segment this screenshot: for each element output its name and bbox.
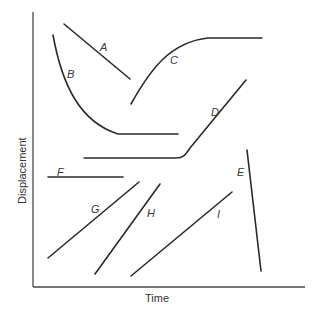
curve-d-label: D: [211, 106, 219, 118]
curve-i-line: [131, 192, 232, 276]
curve-h-label: H: [147, 207, 155, 219]
curve-a-label: A: [99, 41, 107, 53]
curve-g: G: [48, 182, 139, 258]
x-axis-label: Time: [145, 292, 169, 304]
curve-g-line: [48, 182, 139, 258]
curve-c-label: C: [170, 54, 178, 66]
curve-i: I: [131, 192, 232, 276]
curve-b: B: [53, 35, 178, 134]
curve-c-line: [131, 38, 262, 104]
curve-e-line: [247, 150, 261, 271]
displacement-time-diagram: Time Displacement ABCDEFGHI: [0, 0, 316, 310]
curve-b-line: [53, 35, 178, 134]
y-axis-label: Displacement: [16, 137, 28, 204]
curve-c: C: [131, 38, 262, 104]
curve-d: D: [84, 80, 246, 158]
curve-e: E: [237, 150, 261, 271]
curves-group: ABCDEFGHI: [48, 24, 262, 276]
curve-g-label: G: [91, 203, 100, 215]
curve-d-line: [84, 80, 246, 158]
curve-i-label: I: [217, 208, 220, 220]
curve-f: F: [48, 166, 123, 178]
curve-b-label: B: [67, 68, 74, 80]
curve-e-label: E: [237, 166, 245, 178]
